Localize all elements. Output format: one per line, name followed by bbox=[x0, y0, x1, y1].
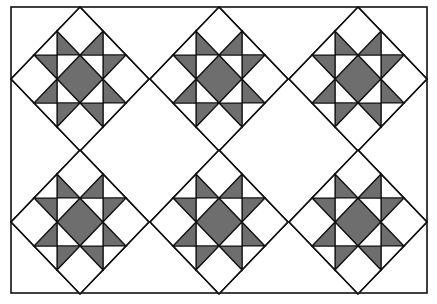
quilt-diagram bbox=[0, 0, 437, 304]
